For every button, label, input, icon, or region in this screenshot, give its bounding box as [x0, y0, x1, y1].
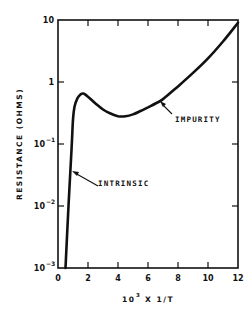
annotation-intrinsic: INTRINSIC [98, 179, 149, 188]
xtick-4: 4 [115, 274, 121, 283]
y-axis-label: RESISTANCE (OHMS) [15, 88, 24, 200]
annotation-impurity: IMPURITY [175, 115, 221, 124]
resistance-curve [66, 23, 239, 268]
ytick-1e-1-exp: −1 [46, 136, 55, 143]
x-axis-label-rest: X 1/T [141, 295, 174, 304]
ytick-1e-2-exp: −2 [46, 198, 55, 205]
xtick-8: 8 [175, 274, 181, 283]
impurity-arrowhead-icon [160, 101, 166, 107]
resistance-chart: 10 1 10 −1 10 −2 10 −3 0 2 4 6 8 10 12 R… [0, 0, 252, 318]
xtick-12: 12 [232, 274, 243, 283]
plot-frame [58, 20, 238, 268]
ytick-1e-3: 10 [34, 264, 46, 273]
xtick-6: 6 [145, 274, 151, 283]
ytick-1e-3-exp: −3 [46, 260, 55, 267]
ytick-1: 1 [48, 78, 54, 87]
ytick-1e-1: 10 [34, 140, 46, 149]
ytick-1e-2: 10 [34, 202, 46, 211]
ytick-10: 10 [43, 16, 55, 25]
xtick-10: 10 [202, 274, 214, 283]
intrinsic-arrow [75, 173, 98, 186]
xtick-0: 0 [55, 274, 61, 283]
x-ticks [88, 20, 208, 268]
xtick-2: 2 [85, 274, 91, 283]
x-axis-label-base: 10 [122, 295, 135, 304]
